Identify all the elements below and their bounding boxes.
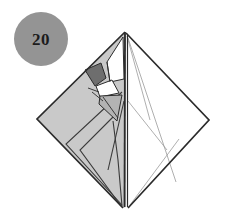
edge-spine-center xyxy=(125,32,126,207)
step-number-badge: 20 xyxy=(14,12,68,66)
origami-step-figure: 20 xyxy=(0,0,227,210)
step-number-label: 20 xyxy=(32,31,50,48)
region-right-back-panel xyxy=(126,33,209,208)
